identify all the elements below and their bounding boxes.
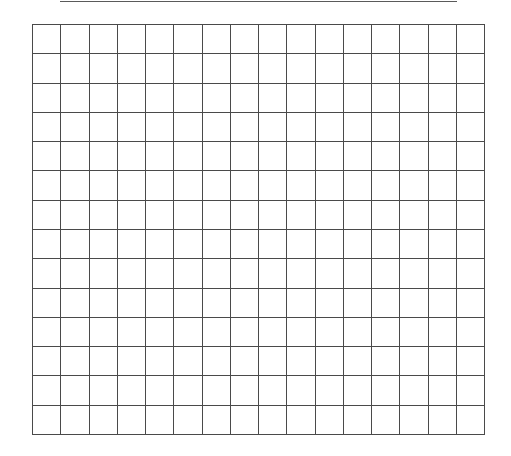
grid-cell <box>118 230 146 259</box>
title-rule-line <box>60 1 457 2</box>
grid-cell <box>429 54 457 83</box>
grid-cell <box>33 84 61 113</box>
grid-cell <box>457 25 485 54</box>
grid-cell <box>231 84 259 113</box>
grid-cell <box>344 25 372 54</box>
grid-cell <box>118 142 146 171</box>
grid-cell <box>372 230 400 259</box>
grid-cell <box>146 142 174 171</box>
grid-cell <box>259 347 287 376</box>
grid-cell <box>203 289 231 318</box>
grid-cell <box>61 25 89 54</box>
grid-cell <box>259 54 287 83</box>
grid-cell <box>457 376 485 405</box>
grid-cell <box>287 376 315 405</box>
grid-cell <box>146 25 174 54</box>
grid-cell <box>372 84 400 113</box>
grid-cell <box>344 84 372 113</box>
grid-cell <box>90 171 118 200</box>
grid-cell <box>259 376 287 405</box>
grid-cell <box>231 113 259 142</box>
grid-cell <box>287 142 315 171</box>
grid-cell <box>400 171 428 200</box>
grid-cell <box>33 25 61 54</box>
grid-cell <box>174 406 202 435</box>
grid-cell <box>316 201 344 230</box>
grid-cell <box>231 289 259 318</box>
grid-cell <box>61 171 89 200</box>
grid-cell <box>457 201 485 230</box>
grid-cell <box>316 347 344 376</box>
grid-cell <box>316 54 344 83</box>
grid-cell <box>203 25 231 54</box>
grid-cell <box>457 84 485 113</box>
grid-cell <box>287 25 315 54</box>
grid-cell <box>33 54 61 83</box>
grid-cell <box>146 347 174 376</box>
grid-cell <box>90 25 118 54</box>
grid-cell <box>146 318 174 347</box>
grid-cell <box>287 113 315 142</box>
grid-cell <box>146 259 174 288</box>
grid-cell <box>231 201 259 230</box>
grid-cell <box>344 289 372 318</box>
grid-cell <box>400 289 428 318</box>
grid-cell <box>287 318 315 347</box>
grid-cell <box>61 230 89 259</box>
grid-cell <box>33 230 61 259</box>
grid-cell <box>203 84 231 113</box>
grid-cell <box>344 376 372 405</box>
grid-cell <box>259 318 287 347</box>
grid-cell <box>400 201 428 230</box>
grid-cell <box>400 113 428 142</box>
grid-cell <box>174 113 202 142</box>
grid-cell <box>316 171 344 200</box>
grid-cell <box>316 230 344 259</box>
grid-cell <box>429 25 457 54</box>
grid-cell <box>90 54 118 83</box>
grid-cell <box>174 289 202 318</box>
grid-cell <box>61 376 89 405</box>
grid-cell <box>400 25 428 54</box>
grid-cell <box>344 171 372 200</box>
grid-cell <box>231 230 259 259</box>
grid-cell <box>90 406 118 435</box>
grid-cell <box>287 201 315 230</box>
grid-cell <box>457 347 485 376</box>
grid-cell <box>259 201 287 230</box>
grid-cell <box>316 142 344 171</box>
grid-cell <box>259 406 287 435</box>
grid-cell <box>372 54 400 83</box>
grid-cell <box>33 259 61 288</box>
grid-cell <box>429 113 457 142</box>
grid-cell <box>372 259 400 288</box>
grid-cell <box>61 54 89 83</box>
grid-cell <box>90 113 118 142</box>
grid-cell <box>90 84 118 113</box>
grid-cell <box>118 54 146 83</box>
grid-cell <box>203 54 231 83</box>
grid-cell <box>118 113 146 142</box>
grid-cell <box>400 54 428 83</box>
grid-cell <box>287 289 315 318</box>
grid-cell <box>174 201 202 230</box>
grid-cell <box>61 347 89 376</box>
grid-cell <box>457 54 485 83</box>
grid-cell <box>33 376 61 405</box>
grid-cell <box>33 347 61 376</box>
grid-cell <box>457 171 485 200</box>
grid-cell <box>118 406 146 435</box>
grid-cell <box>316 406 344 435</box>
grid-table <box>32 24 485 435</box>
grid-cell <box>203 113 231 142</box>
grid-cell <box>429 84 457 113</box>
grid-cell <box>118 259 146 288</box>
grid-cell <box>146 84 174 113</box>
grid-cell <box>231 54 259 83</box>
grid-cell <box>344 406 372 435</box>
grid-cell <box>344 347 372 376</box>
grid-cell <box>61 84 89 113</box>
grid-cell <box>146 406 174 435</box>
grid-cell <box>259 142 287 171</box>
grid-cell <box>344 142 372 171</box>
